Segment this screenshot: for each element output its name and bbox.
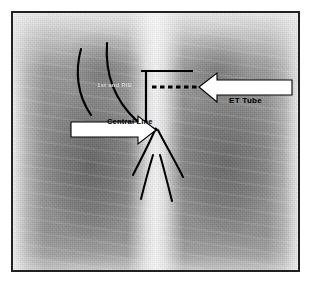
rib-outline-upper-icon xyxy=(78,49,91,115)
annotated-chest-xray-figure: ET Tube Central Line 1st and RIB xyxy=(0,0,312,290)
rib-outline-lower-icon xyxy=(107,43,137,121)
central-line-callout-arrow[interactable] xyxy=(71,116,156,144)
annotation-vector-layer xyxy=(13,13,298,270)
bronchus-right-outer-icon xyxy=(158,130,183,177)
annotation-overlay: ET Tube Central Line 1st and RIB xyxy=(13,13,298,270)
bronchus-left-inner-icon xyxy=(141,155,153,199)
et-tube-callout-arrow[interactable] xyxy=(199,73,292,102)
bronchus-right-inner-icon xyxy=(160,155,172,201)
xray-image-frame: ET Tube Central Line 1st and RIB xyxy=(11,11,300,272)
